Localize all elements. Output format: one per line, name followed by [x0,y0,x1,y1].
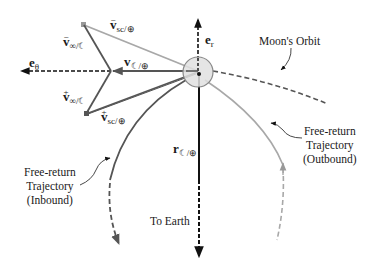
inbound-trajectory-solid [110,80,186,180]
v-inf-plus-label: v+∞/☾ [63,88,87,106]
v-inf-minus-label: v−∞/☾ [63,33,87,51]
e-theta-label: eθ [29,56,39,72]
to-earth-label: To Earth [150,214,190,228]
v-inf-minus-line [84,25,111,71]
moon-orbit-pointer [281,48,291,70]
moon-center-dot [197,72,201,76]
moon-orbit-label: Moon's Orbit [259,34,320,48]
outbound-trajectory-solid [205,80,283,165]
inbound-label: Free-return Trajectory (Inbound) [24,165,76,207]
v-sc-plus-label: v+sc/⊕ [101,108,126,126]
e-r-label: er [205,33,214,49]
outbound-trajectory-dashed [277,168,283,240]
v-sc-minus-label: v−sc/⊕ [110,16,135,34]
inbound-trajectory-dashed [109,183,119,244]
r-moon-label: r☾/⊕ [173,142,197,158]
outbound-label: Free-return Trajectory (Outbound) [303,124,357,166]
inbound-pointer [80,158,110,185]
v-moon-label: v☾/⊕ [124,55,149,71]
outbound-pointer [271,123,302,138]
free-return-trajectory-diagram: v−sc/⊕ v−∞/☾ v☾/⊕ v+∞/☾ v+sc/⊕ r☾/⊕ eθ e… [0,0,380,270]
